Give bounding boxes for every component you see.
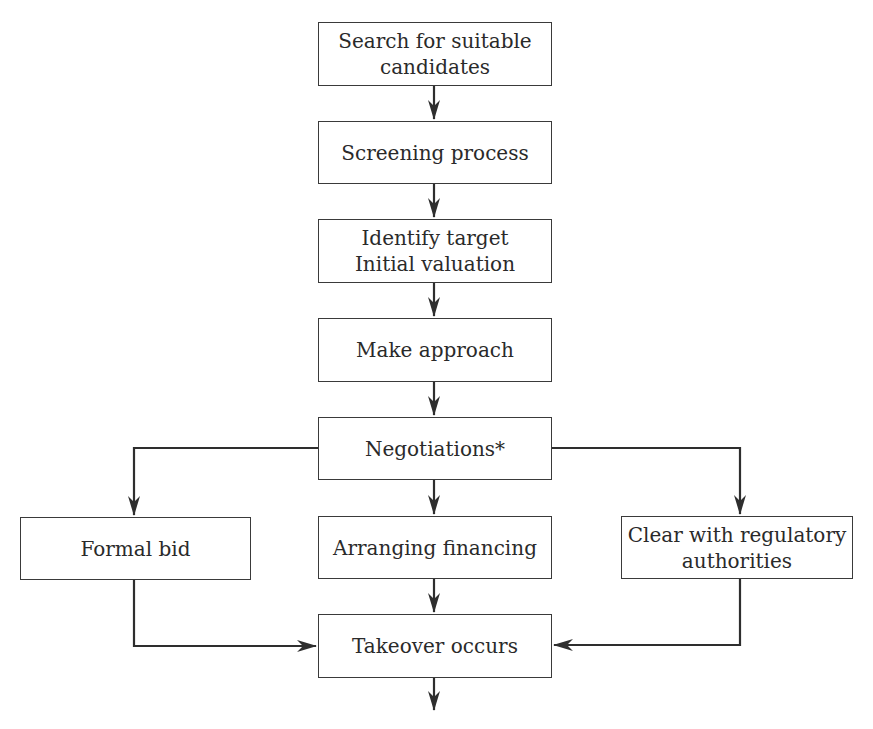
node-screening-process: Screening process xyxy=(318,121,552,184)
node-regulatory-clearance: Clear with regulatory authorities xyxy=(621,516,853,579)
node-formal-bid: Formal bid xyxy=(20,517,251,580)
arrow-negotiations-to-formal-bid xyxy=(134,448,318,515)
node-takeover-occurs: Takeover occurs xyxy=(318,614,552,678)
node-search-candidates: Search for suitable candidates xyxy=(318,22,552,86)
flowchart-canvas: Search for suitable candidates Screening… xyxy=(0,0,873,729)
arrow-regulatory-to-takeover xyxy=(554,579,740,645)
node-identify-target: Identify target Initial valuation xyxy=(318,219,552,283)
node-arranging-financing: Arranging financing xyxy=(318,516,552,579)
node-negotiations: Negotiations* xyxy=(318,417,552,480)
arrow-negotiations-to-regulatory xyxy=(552,448,740,514)
node-make-approach: Make approach xyxy=(318,318,552,382)
arrow-formal-bid-to-takeover xyxy=(134,580,316,646)
